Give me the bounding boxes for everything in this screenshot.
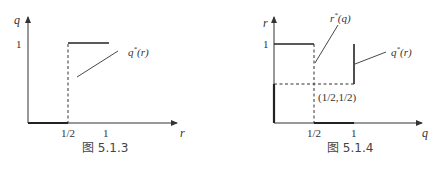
label-leader-line [77,51,118,77]
figure-5-1-4: r 1 r*(q) q*(r) (1/2,1/2) 1/2 1 q 图 5.1.… [263,11,428,155]
x-tick-half: 1/2 [61,127,75,139]
y-tick-1: 1 [263,38,269,50]
figure-5-1-3: q 1 q*(r) 1/2 1 r 图 5.1.3 [14,13,185,155]
curve-label-q-star-r: q*(r) [391,45,412,59]
x-tick-1: 1 [351,127,357,139]
r-star-leader-line [315,25,338,63]
figure-caption: 图 5.1.3 [82,141,128,155]
x-tick-1: 1 [103,127,109,139]
curve-label-q-star-r: q*(r) [128,45,149,59]
x-axis-label: r [180,126,185,140]
curve-label-r-star-q: r*(q) [330,11,351,25]
y-axis-label: q [14,13,20,27]
x-axis-label: q [422,126,428,140]
x-tick-half: 1/2 [307,127,321,139]
y-axis-label: r [263,16,268,30]
figure-caption: 图 5.1.4 [327,141,373,155]
diagram-canvas: q 1 q*(r) 1/2 1 r 图 5.1.3 r 1 [0,0,436,172]
equilibrium-point-label: (1/2,1/2) [318,91,357,104]
q-star-leader-line [355,52,386,64]
y-tick-1: 1 [16,38,22,50]
